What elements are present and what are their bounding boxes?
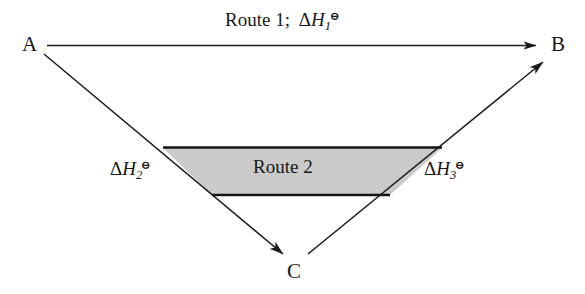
h-glyph-3: H bbox=[436, 158, 450, 179]
enthalpy-2-label: ΔH2⊖ bbox=[110, 159, 151, 181]
h-glyph-1: H bbox=[311, 9, 325, 30]
hess-cycle-diagram: A B C Route 1; ΔH1⊖ Route 2 ΔH2⊖ ΔH3⊖ bbox=[0, 0, 585, 294]
vertex-label-a: A bbox=[22, 34, 37, 55]
cycle-vector-canvas bbox=[0, 0, 585, 294]
standard-state-icon-2: ⊖ bbox=[141, 159, 151, 172]
route-1-text: Route 1; bbox=[225, 9, 290, 30]
route-2-label: Route 2 bbox=[253, 157, 313, 176]
delta-glyph-3: Δ bbox=[424, 158, 436, 179]
delta-glyph-1: Δ bbox=[299, 9, 311, 30]
h-glyph-2: H bbox=[122, 158, 136, 179]
enthalpy-3-label: ΔH3⊖ bbox=[424, 159, 465, 181]
standard-state-icon-3: ⊖ bbox=[455, 159, 465, 172]
vertex-label-c: C bbox=[287, 261, 301, 282]
vertex-label-b: B bbox=[551, 34, 565, 55]
delta-glyph-2: Δ bbox=[110, 158, 122, 179]
route-1-label: Route 1; ΔH1⊖ bbox=[225, 10, 340, 32]
standard-state-icon-1: ⊖ bbox=[330, 10, 340, 23]
enthalpy-1-term: ΔH1⊖ bbox=[299, 9, 340, 30]
